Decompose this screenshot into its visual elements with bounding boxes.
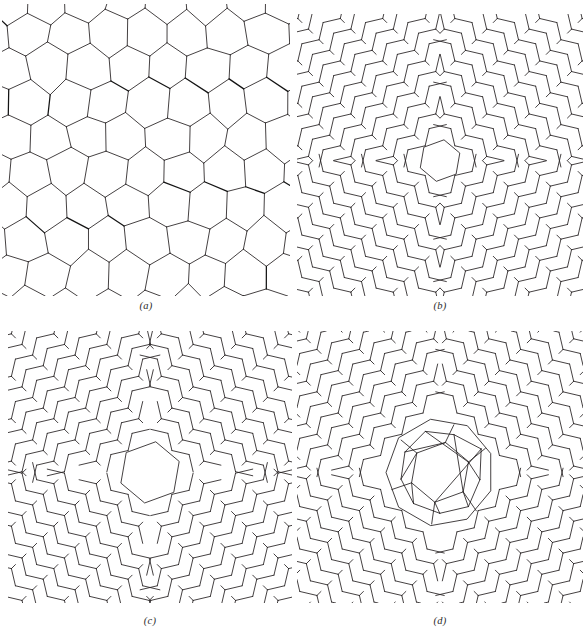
panel-b-diagram (297, 14, 583, 296)
figure-container: (a) (b) (c) (d) (0, 0, 585, 634)
panel-c-diagram (8, 331, 292, 603)
panel-a-label: (a) (2, 300, 290, 311)
panel-d-pinwheel-amorphous-core (297, 331, 583, 603)
panel-c-label: (c) (8, 615, 292, 626)
panel-a-diagram (2, 4, 290, 296)
panel-a-random-network (2, 4, 290, 296)
panel-b-pinwheel-small-core (297, 14, 583, 296)
panel-c-pinwheel-medium-core (8, 331, 292, 603)
panel-b-label: (b) (297, 300, 583, 311)
panel-d-label: (d) (297, 615, 583, 626)
panel-d-diagram (297, 331, 583, 603)
